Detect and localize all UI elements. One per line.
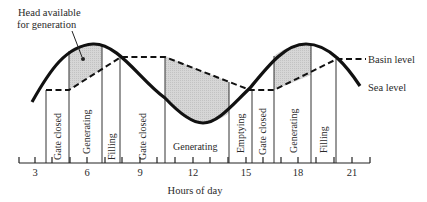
head-region-3 [274, 44, 311, 90]
basin-level-label: Basin level [368, 54, 415, 65]
phase-label: Gate closed [137, 113, 148, 160]
head-pointer-dot [81, 57, 85, 61]
phase-label: Filling [318, 126, 329, 153]
x-tick-label: 6 [84, 167, 89, 178]
x-tick-label: 3 [32, 167, 37, 178]
tidal-power-diagram: Head available for generation Basin leve… [0, 0, 427, 202]
phase-label: Generating [288, 109, 299, 153]
phase-label: Gate closed [52, 113, 63, 160]
head-available-label: Head available [18, 7, 81, 18]
phase-label: Generating [81, 110, 92, 154]
phase-label: Generating [173, 141, 217, 152]
phase-label: Gate closed [257, 108, 268, 155]
x-tick-label: 9 [137, 167, 142, 178]
phase-label: Filling [106, 133, 117, 160]
x-tick-label: 15 [241, 167, 252, 178]
head-available-label-2: for generation [17, 19, 77, 30]
x-tick-label: 12 [188, 167, 199, 178]
phase-label: Emptying [235, 114, 246, 153]
x-tick-label: 18 [293, 167, 304, 178]
x-axis [19, 157, 370, 163]
x-tick-label: 21 [347, 167, 358, 178]
sea-level-label: Sea level [368, 82, 406, 93]
x-axis-label: Hours of day [168, 185, 224, 196]
head-region-2 [165, 56, 229, 123]
